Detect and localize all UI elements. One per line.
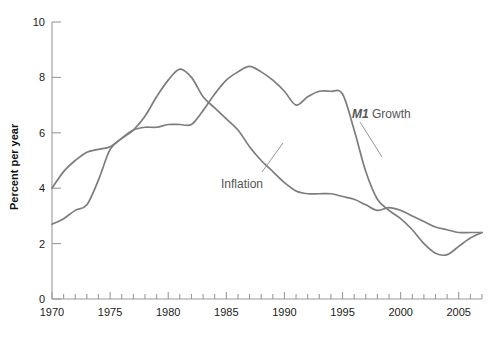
y-tick-label: 8	[39, 71, 45, 83]
m1-growth-label-rest: Growth	[369, 107, 411, 121]
m1-growth-leader-line	[360, 122, 382, 157]
m1-growth-series-label: M1 Growth	[352, 107, 411, 121]
x-tick-label: 1970	[40, 306, 64, 318]
y-tick-label: 10	[33, 16, 45, 28]
series-line-m1-growth	[52, 66, 482, 255]
x-tick-label: 1995	[330, 306, 354, 318]
y-tick-label: 0	[39, 293, 45, 305]
x-tick-label: 1985	[214, 306, 238, 318]
x-tick-label: 1975	[98, 306, 122, 318]
inflation-label-text: Inflation	[221, 177, 263, 191]
x-axis-minor-ticks	[64, 294, 482, 299]
x-tick-label: 1980	[156, 306, 180, 318]
m1-growth-label-em: M1	[352, 107, 369, 121]
series-line-inflation	[52, 69, 482, 233]
y-tick-label: 2	[39, 238, 45, 250]
inflation-series-label: Inflation	[221, 177, 263, 191]
y-tick-label: 6	[39, 127, 45, 139]
x-tick-label: 2005	[447, 306, 471, 318]
series-paths	[52, 66, 482, 255]
x-tick-label: 1990	[272, 306, 296, 318]
y-axis-ticks	[52, 22, 61, 299]
chart-container: 0246810 19701975198019851990199520002005…	[0, 0, 489, 339]
y-axis-title: Percent per year	[8, 123, 20, 210]
y-axis-tick-labels: 0246810	[33, 16, 45, 305]
x-tick-label: 2000	[388, 306, 412, 318]
x-axis-tick-labels: 19701975198019851990199520002005	[40, 306, 471, 318]
line-chart: 0246810 19701975198019851990199520002005…	[0, 0, 489, 339]
y-tick-label: 4	[39, 182, 45, 194]
inflation-leader-line	[262, 143, 283, 172]
x-axis-major-ticks	[52, 292, 459, 299]
